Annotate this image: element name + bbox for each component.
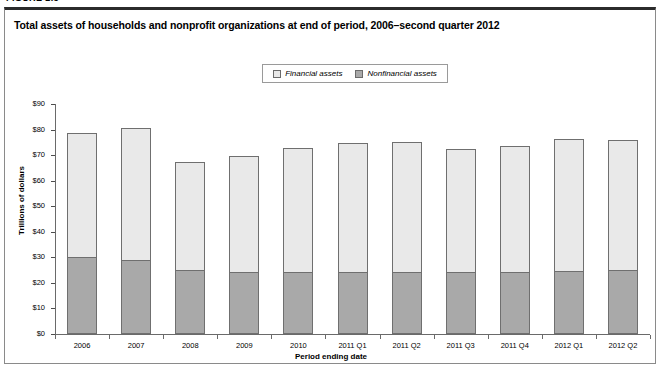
legend-item-nonfinancial-assets: Nonfinancial assets [355, 69, 436, 78]
chart-title: Total assets of households and nonprofit… [14, 19, 499, 31]
figure-number-label: FIGURE 2.3 [6, 0, 59, 3]
legend-swatch-financial-assets [273, 70, 281, 78]
chart-legend: Financial assets Nonfinancial assets [262, 64, 448, 83]
legend-label-financial-assets: Financial assets [285, 69, 342, 78]
legend-swatch-nonfinancial-assets [355, 70, 363, 78]
figure-frame [4, 7, 656, 364]
legend-label-nonfinancial-assets: Nonfinancial assets [367, 69, 436, 78]
figure-page: FIGURE 2.3 Total assets of households an… [0, 0, 662, 368]
legend-item-financial-assets: Financial assets [273, 69, 342, 78]
